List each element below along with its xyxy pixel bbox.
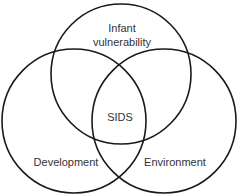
label-infant-line1: Infant [108,22,136,34]
label-infant-line2: vulnerability [93,36,152,48]
label-development: Development [34,156,99,168]
label-sids: SIDS [107,111,133,123]
label-environment: Environment [144,156,206,168]
venn-diagram: Infant vulnerability SIDS Development En… [0,0,238,195]
